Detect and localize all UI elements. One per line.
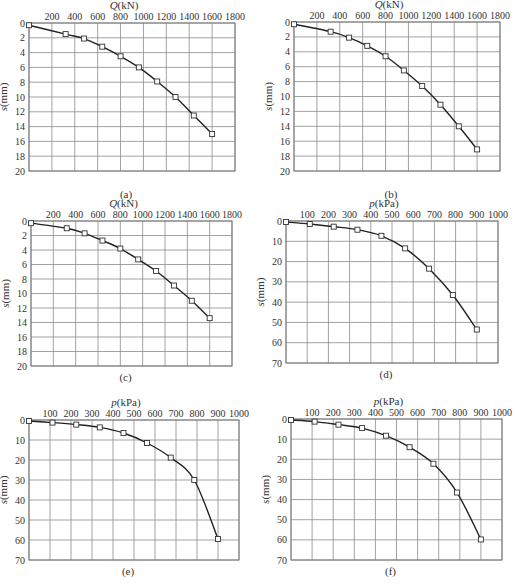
square-marker-icon bbox=[207, 316, 212, 321]
x-tick-label: 100 bbox=[305, 407, 320, 418]
square-marker-icon bbox=[346, 35, 351, 40]
x-tick-label: 600 bbox=[91, 209, 106, 220]
chart-panel-a: 2004006008001000120014001600180002468101… bbox=[0, 0, 245, 201]
square-marker-icon bbox=[431, 461, 436, 466]
x-tick-label: 1200 bbox=[155, 209, 175, 220]
x-tick-label: 1400 bbox=[444, 10, 464, 21]
y-tick-label: 2 bbox=[20, 32, 25, 43]
x-tick-label: 800 bbox=[452, 407, 467, 418]
x-tick-label: 300 bbox=[342, 209, 357, 220]
square-marker-icon bbox=[121, 431, 126, 436]
gridlines bbox=[286, 221, 498, 363]
panel-caption: (f) bbox=[385, 565, 396, 578]
y-tick-label: 8 bbox=[22, 274, 27, 285]
chart-panel-e: 1002003004005006007008009001000010203040… bbox=[0, 396, 249, 578]
square-marker-icon bbox=[173, 95, 178, 100]
y-axis-label: s(mm) bbox=[0, 279, 12, 308]
y-tick-label: 60 bbox=[272, 337, 282, 348]
square-marker-icon bbox=[438, 102, 443, 107]
y-tick-label: 10 bbox=[15, 92, 25, 103]
square-marker-icon bbox=[383, 54, 388, 59]
x-tick-label: 1600 bbox=[467, 10, 487, 21]
x-tick-label: 900 bbox=[473, 407, 488, 418]
y-tick-label: 12 bbox=[280, 106, 290, 117]
x-tick-label: 700 bbox=[431, 407, 446, 418]
y-axis-label: s(mm) bbox=[259, 475, 272, 504]
square-marker-icon bbox=[27, 419, 32, 424]
y-axis-label: s(mm) bbox=[262, 82, 275, 111]
x-tick-label: 1800 bbox=[222, 209, 242, 220]
square-marker-icon bbox=[474, 327, 479, 332]
square-marker-icon bbox=[427, 266, 432, 271]
square-marker-icon bbox=[100, 44, 105, 49]
x-tick-label: 1000 bbox=[133, 209, 153, 220]
square-marker-icon bbox=[475, 147, 480, 152]
y-tick-label: 20 bbox=[15, 455, 25, 466]
y-tick-label: 30 bbox=[277, 474, 287, 485]
y-tick-label: 12 bbox=[15, 106, 25, 117]
y-tick-label: 70 bbox=[277, 555, 287, 566]
y-tick-label: 0 bbox=[20, 415, 25, 426]
x-tick-label: 800 bbox=[113, 209, 128, 220]
x-tick-label: 1000 bbox=[229, 408, 249, 419]
y-tick-label: 4 bbox=[22, 245, 27, 256]
x-tick-label: 800 bbox=[378, 10, 393, 21]
gridlines bbox=[29, 420, 239, 560]
square-marker-icon bbox=[336, 422, 341, 427]
panel-caption: (d) bbox=[380, 368, 393, 381]
y-tick-label: 0 bbox=[282, 414, 287, 425]
x-tick-label: 1400 bbox=[179, 11, 199, 22]
y-tick-label: 0 bbox=[20, 18, 25, 29]
y-tick-label: 12 bbox=[17, 303, 27, 314]
y-tick-label: 18 bbox=[17, 346, 27, 357]
square-marker-icon bbox=[145, 441, 150, 446]
x-tick-label: 400 bbox=[368, 407, 383, 418]
square-marker-icon bbox=[191, 113, 196, 118]
y-tick-label: 40 bbox=[277, 494, 287, 505]
square-marker-icon bbox=[365, 43, 370, 48]
y-tick-label: 70 bbox=[272, 358, 282, 369]
x-tick-label: 800 bbox=[190, 408, 205, 419]
square-marker-icon bbox=[328, 29, 333, 34]
y-tick-label: 50 bbox=[272, 317, 282, 328]
chart-panel-f: 1002003004005006007008009001000010203040… bbox=[259, 395, 512, 578]
x-axis-label: p(kPa) bbox=[373, 395, 404, 408]
square-marker-icon bbox=[29, 221, 34, 226]
y-tick-label: 8 bbox=[285, 76, 290, 87]
y-tick-label: 6 bbox=[22, 259, 27, 270]
y-tick-label: 50 bbox=[277, 514, 287, 525]
square-marker-icon bbox=[379, 233, 384, 238]
gridlines bbox=[294, 22, 500, 171]
square-marker-icon bbox=[292, 22, 297, 27]
x-tick-label: 1200 bbox=[156, 11, 176, 22]
x-tick-label: 1600 bbox=[202, 11, 222, 22]
square-marker-icon bbox=[284, 220, 289, 225]
square-marker-icon bbox=[171, 283, 176, 288]
y-tick-label: 70 bbox=[15, 555, 25, 566]
y-tick-label: 16 bbox=[15, 136, 25, 147]
x-tick-label: 1000 bbox=[492, 407, 512, 418]
x-tick-label: 100 bbox=[300, 209, 315, 220]
square-marker-icon bbox=[82, 231, 87, 236]
y-tick-label: 20 bbox=[277, 454, 287, 465]
y-tick-label: 40 bbox=[272, 297, 282, 308]
x-tick-label: 500 bbox=[389, 407, 404, 418]
square-marker-icon bbox=[168, 455, 173, 460]
y-tick-label: 10 bbox=[15, 435, 25, 446]
x-tick-label: 600 bbox=[148, 408, 163, 419]
square-marker-icon bbox=[154, 269, 159, 274]
square-marker-icon bbox=[312, 419, 317, 424]
square-marker-icon bbox=[307, 222, 312, 227]
square-marker-icon bbox=[403, 246, 408, 251]
y-tick-label: 4 bbox=[285, 46, 290, 57]
x-tick-label: 1000 bbox=[488, 209, 508, 220]
y-tick-label: 16 bbox=[280, 136, 290, 147]
x-tick-label: 600 bbox=[406, 209, 421, 220]
x-tick-label: 200 bbox=[321, 209, 336, 220]
y-tick-label: 2 bbox=[285, 31, 290, 42]
x-axis-label: p(kPa) bbox=[110, 396, 141, 409]
square-marker-icon bbox=[81, 36, 86, 41]
panel-caption: (e) bbox=[122, 565, 135, 578]
x-tick-label: 1000 bbox=[398, 10, 418, 21]
square-marker-icon bbox=[100, 238, 105, 243]
